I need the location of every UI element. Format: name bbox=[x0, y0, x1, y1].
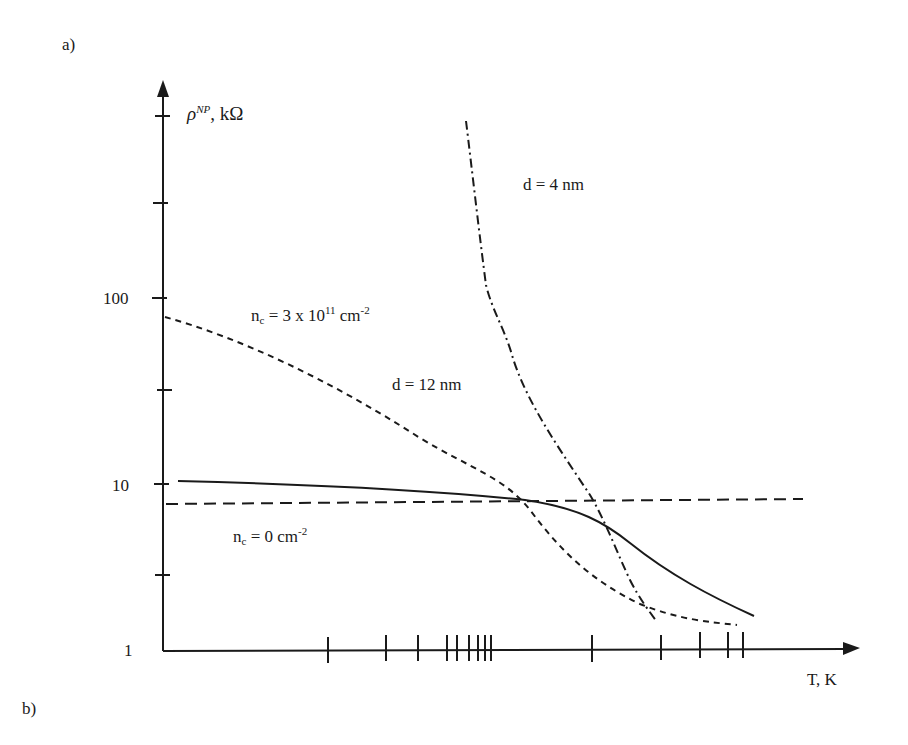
curve-nc0-long-dash bbox=[166, 499, 803, 504]
y-tick-label-100: 100 bbox=[103, 290, 129, 307]
curve-nc3e11-short-dash bbox=[165, 317, 737, 625]
y-axis-superscript: NP bbox=[196, 103, 210, 115]
x-axis-label: T, K bbox=[807, 671, 837, 688]
annotation-nc-3e11: nc = 3 x 1011 cm-2 bbox=[251, 305, 370, 326]
annotation-d12: d = 12 nm bbox=[392, 376, 462, 393]
annotation-sup: -2 bbox=[298, 525, 307, 537]
chart-canvas bbox=[0, 0, 908, 745]
y-tick-label-10: 10 bbox=[112, 477, 129, 494]
x-axis-arrow-icon bbox=[843, 642, 860, 655]
annotation-text: n bbox=[233, 527, 242, 546]
curve-solid bbox=[178, 481, 754, 616]
y-axis-label: ρNP, kΩ bbox=[187, 104, 243, 123]
annotation-nc-0: nc = 0 cm-2 bbox=[233, 526, 307, 547]
annotation-text: cm bbox=[336, 306, 361, 325]
annotation-text: = 3 x 10 bbox=[264, 306, 325, 325]
x-ticks bbox=[328, 632, 743, 663]
annotation-d4: d = 4 nm bbox=[523, 176, 584, 193]
y-axis-symbol: ρ bbox=[187, 103, 196, 124]
annotation-text: = 0 cm bbox=[246, 527, 298, 546]
annotation-text: n bbox=[251, 306, 260, 325]
annotation-sup: -2 bbox=[361, 304, 370, 316]
y-axis-unit: , kΩ bbox=[210, 103, 243, 124]
annotation-sup: 11 bbox=[325, 304, 336, 316]
y-axis-arrow-icon bbox=[157, 80, 169, 97]
y-tick-label-1: 1 bbox=[124, 642, 133, 659]
